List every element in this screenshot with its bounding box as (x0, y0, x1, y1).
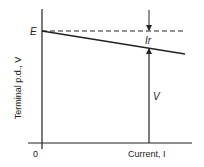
drop-label-ir: Ir (145, 35, 152, 46)
x-axis-label: Current, I (128, 149, 166, 159)
voltage-label-v: V (153, 91, 161, 102)
y-axis-label: Terminal p.d., V (13, 57, 23, 120)
intercept-label-e: E (30, 26, 37, 37)
diagram-canvas: E Ir V 0 Current, I Terminal p.d., V (0, 0, 204, 167)
origin-label: 0 (33, 149, 38, 159)
terminal-pd-line (42, 31, 185, 54)
